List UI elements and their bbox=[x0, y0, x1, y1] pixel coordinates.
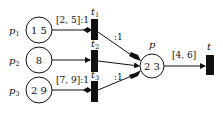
place-label: p bbox=[149, 39, 156, 50]
arc-p1-t1 bbox=[52, 27, 92, 33]
place-label: p2 bbox=[9, 55, 20, 68]
arc-t2-p bbox=[98, 61, 139, 66]
place-p: 2 3 p bbox=[140, 39, 164, 78]
transition-t3: t3 bbox=[91, 69, 99, 102]
arc-label-t1-p: :1 bbox=[114, 32, 123, 42]
arc-label-p3-t3: [7, 9]:1 bbox=[56, 75, 89, 85]
place-p3: 2 9 p3 bbox=[9, 77, 52, 103]
diamond-arc-head-icon bbox=[83, 87, 92, 93]
arc-p3-t3 bbox=[52, 87, 92, 93]
tag-arc-head-icon bbox=[129, 52, 141, 61]
arc-label-t3-p: :1 bbox=[114, 72, 123, 82]
arc-label-p-t: [4, 6] bbox=[172, 50, 196, 60]
place-tokens: 2 3 bbox=[144, 61, 160, 72]
tag-arc-head-icon bbox=[129, 70, 141, 79]
place-tokens: 2 9 bbox=[31, 85, 47, 96]
transition-t: t bbox=[206, 41, 214, 75]
diamond-arc-head-icon bbox=[83, 27, 92, 33]
place-p1: 1 5 p1 bbox=[9, 17, 52, 43]
place-label: p3 bbox=[9, 85, 20, 98]
transition-label: t1 bbox=[91, 6, 99, 19]
place-p2: 8 p2 bbox=[9, 47, 52, 73]
transition-t2: t2 bbox=[91, 38, 99, 72]
place-tokens: 8 bbox=[36, 55, 42, 66]
petri-net-diagram: [2, 5]:1 [7, 9]:1 :1 :1 [4, 6] 1 5 p1 8 … bbox=[0, 0, 223, 122]
place-tokens: 1 5 bbox=[31, 25, 47, 36]
arc-label-p1-t1: [2, 5]:1 bbox=[56, 15, 89, 25]
transition-t1: t1 bbox=[91, 6, 99, 40]
place-label: p1 bbox=[9, 25, 20, 38]
transition-label: t bbox=[207, 41, 212, 52]
